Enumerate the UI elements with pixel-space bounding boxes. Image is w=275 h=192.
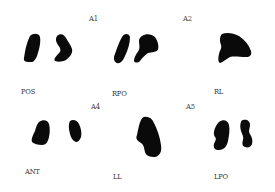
rpo-left-lung-blob	[114, 34, 130, 63]
lung-scan-images	[0, 0, 275, 192]
ll-lung-blob	[136, 117, 161, 157]
panel-label-a4: A4	[91, 102, 100, 111]
pos-right-lung-blob	[54, 34, 72, 61]
panel-label-a2: A2	[183, 14, 192, 23]
lpo-left-lung-blob	[214, 120, 230, 150]
view-label-ll: LL	[113, 172, 122, 181]
view-label-rpo: RPO	[112, 89, 127, 98]
pos-left-lung-blob	[24, 34, 40, 62]
rpo-right-lung-blob	[134, 34, 158, 62]
panel-label-a5: A5	[186, 102, 195, 111]
lpo-right-lung-blob	[240, 120, 252, 148]
ant-left-lung-blob	[32, 120, 50, 145]
view-label-ant: ANT	[25, 167, 40, 176]
rl-lung-blob	[218, 33, 251, 63]
ant-right-lung-blob	[69, 120, 82, 142]
view-label-lpo: LPO	[214, 172, 228, 181]
view-label-pos: POS	[21, 87, 35, 96]
view-label-rl: RL	[214, 87, 223, 96]
panel-label-a1: A1	[89, 14, 98, 23]
scintigraphy-figure: A1 A2 A4 A5 POS RPO RL ANT LL LPO	[0, 0, 275, 192]
